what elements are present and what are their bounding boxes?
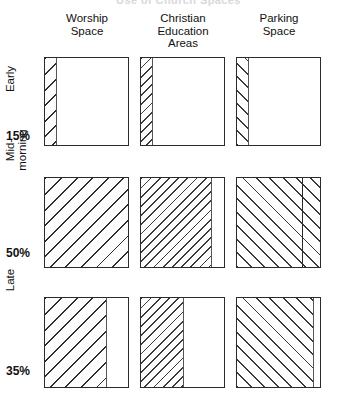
cell-late-worship	[44, 297, 129, 388]
fill-mid-morning-christian	[141, 178, 212, 267]
cell-mid-morning-worship	[44, 177, 129, 268]
column-header-worship-line2: Space	[44, 25, 130, 38]
column-header-parking-line2: Space	[236, 25, 322, 38]
cell-mid-morning-christian	[140, 177, 225, 268]
fill-late-christian	[141, 298, 184, 387]
cell-early-worship	[44, 57, 129, 146]
column-header-christian-line3: Areas	[140, 37, 226, 50]
fill-late-worship	[45, 298, 107, 387]
fill-early-parking	[237, 58, 249, 145]
column-header-worship: Worship Space	[44, 12, 130, 37]
fill-mid-morning-worship	[45, 178, 128, 267]
cell-mid-morning-parking	[236, 177, 321, 268]
column-header-christian-line1: Christian	[140, 12, 226, 25]
column-header-christian-education: Christian Education Areas	[140, 12, 226, 50]
cell-early-christian	[140, 57, 225, 146]
cell-late-parking	[236, 297, 321, 388]
fill-late-parking	[237, 298, 314, 387]
column-header-christian-line2: Education	[140, 25, 226, 38]
column-header-parking-line1: Parking	[236, 12, 322, 25]
column-header-worship-line1: Worship	[44, 12, 130, 25]
row-percent-late: 35%	[6, 364, 30, 378]
divider-mid-morning-parking	[302, 178, 303, 267]
row-name-mid-morning: Mid- morning	[4, 115, 29, 185]
column-header-row: Worship Space Christian Education Areas …	[44, 12, 320, 54]
row-name-late: Late	[4, 245, 16, 315]
cell-early-parking	[236, 57, 321, 146]
column-header-parking: Parking Space	[236, 12, 322, 37]
row-name-early: Early	[4, 44, 16, 114]
fill-early-christian	[141, 58, 153, 145]
chart-title: Use of Church Spaces	[0, 0, 357, 6]
fill-mid-morning-parking	[237, 178, 320, 267]
cell-late-christian	[140, 297, 225, 388]
fill-early-worship	[45, 58, 57, 145]
